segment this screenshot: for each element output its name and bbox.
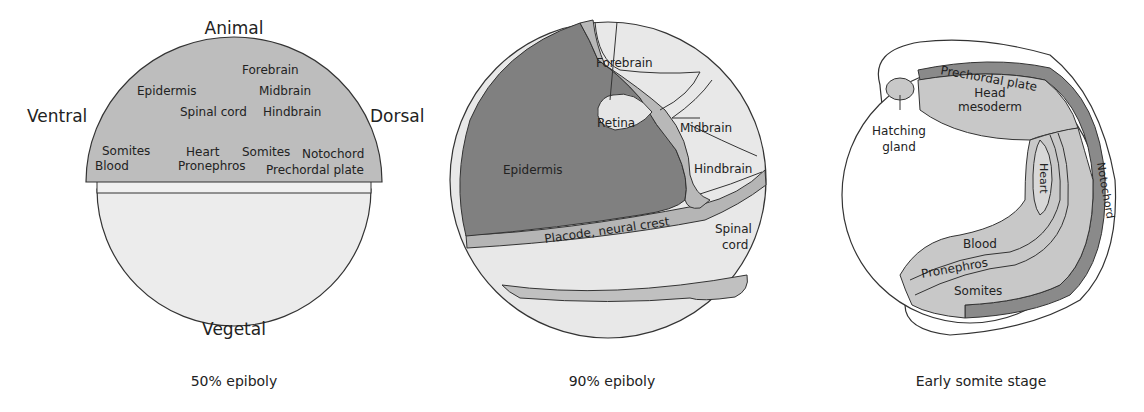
panel-50-epiboly: Animal Vegetal Ventral Dorsal Forebrain … <box>27 18 424 389</box>
label-notochord: Notochord <box>302 147 364 161</box>
label-somites-dorsal: Somites <box>242 145 290 159</box>
label-pronephros: Pronephros <box>178 159 246 173</box>
label-forebrain: Forebrain <box>242 63 299 77</box>
label-somites-ventral: Somites <box>102 144 150 158</box>
label-mesoderm: mesoderm <box>958 100 1022 114</box>
panel-early-somite: Prechordal plate Head mesoderm Hatching … <box>842 40 1117 389</box>
caption-50-epiboly: 50% epiboly <box>191 373 278 389</box>
label-midbrain: Midbrain <box>259 84 311 98</box>
label-gland: gland <box>882 140 916 154</box>
label-spinal: Spinal <box>715 222 752 236</box>
label-somites: Somites <box>954 284 1002 298</box>
label-hindbrain: Hindbrain <box>694 162 752 176</box>
label-epidermis: Epidermis <box>503 163 563 177</box>
vegetal-label: Vegetal <box>202 319 266 339</box>
label-epidermis: Epidermis <box>137 84 197 98</box>
label-heart: Heart <box>186 145 220 159</box>
caption-90-epiboly: 90% epiboly <box>569 373 656 389</box>
label-cord: cord <box>722 238 748 252</box>
label-midbrain: Midbrain <box>680 121 732 135</box>
ventral-label: Ventral <box>27 106 87 126</box>
animal-label: Animal <box>205 18 264 38</box>
label-heart: Heart <box>1037 163 1050 194</box>
margin-band <box>97 181 371 193</box>
yolk-region <box>97 189 371 326</box>
label-head: Head <box>974 86 1005 100</box>
label-hindbrain: Hindbrain <box>263 105 321 119</box>
label-blood: Blood <box>95 159 129 173</box>
label-prechordal-plate: Prechordal plate <box>266 163 364 177</box>
fate-map-diagram: Animal Vegetal Ventral Dorsal Forebrain … <box>0 0 1144 412</box>
caption-early-somite-stage: Early somite stage <box>916 373 1047 389</box>
label-spinal-cord: Spinal cord <box>180 105 247 119</box>
label-retina: Retina <box>597 116 635 130</box>
label-hatching: Hatching <box>872 124 926 138</box>
label-blood: Blood <box>963 237 997 251</box>
dorsal-label: Dorsal <box>370 106 424 126</box>
panel-90-epiboly: Forebrain Retina Midbrain Epidermis Hind… <box>450 20 766 389</box>
label-forebrain: Forebrain <box>596 56 653 70</box>
